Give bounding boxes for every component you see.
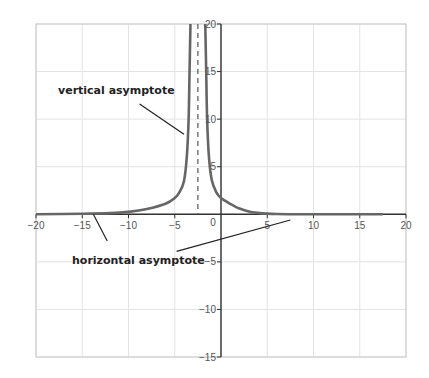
x-tick-label: 0	[210, 217, 216, 228]
x-tick-label: 10	[308, 220, 320, 231]
y-tick-label: 15	[205, 66, 217, 77]
y-tick-label: −5	[205, 256, 217, 267]
annotation-pointer-line	[177, 220, 291, 251]
y-tick-label: −15	[199, 352, 216, 363]
y-tick-label: 10	[205, 114, 217, 125]
annotation-pointer-line	[93, 214, 107, 241]
x-tick-label: −10	[120, 220, 137, 231]
tick-labels: −20−15−10−5051015202015105−5−10−15	[28, 19, 412, 363]
axes	[36, 24, 406, 357]
x-tick-label: −15	[74, 220, 91, 231]
y-tick-label: −10	[199, 304, 216, 315]
y-tick-label: 5	[210, 161, 216, 172]
x-tick-label: −5	[169, 220, 181, 231]
x-tick-label: −20	[28, 220, 45, 231]
x-tick-label: 15	[354, 220, 366, 231]
horizontal-asymptote-label: horizontal asymptote	[72, 254, 205, 267]
vertical-asymptote-label: vertical asymptote	[58, 84, 175, 97]
y-tick-label: 20	[205, 19, 217, 30]
x-tick-label: 20	[400, 220, 412, 231]
asymptote-chart: −20−15−10−5051015202015105−5−10−15 verti…	[0, 0, 429, 378]
